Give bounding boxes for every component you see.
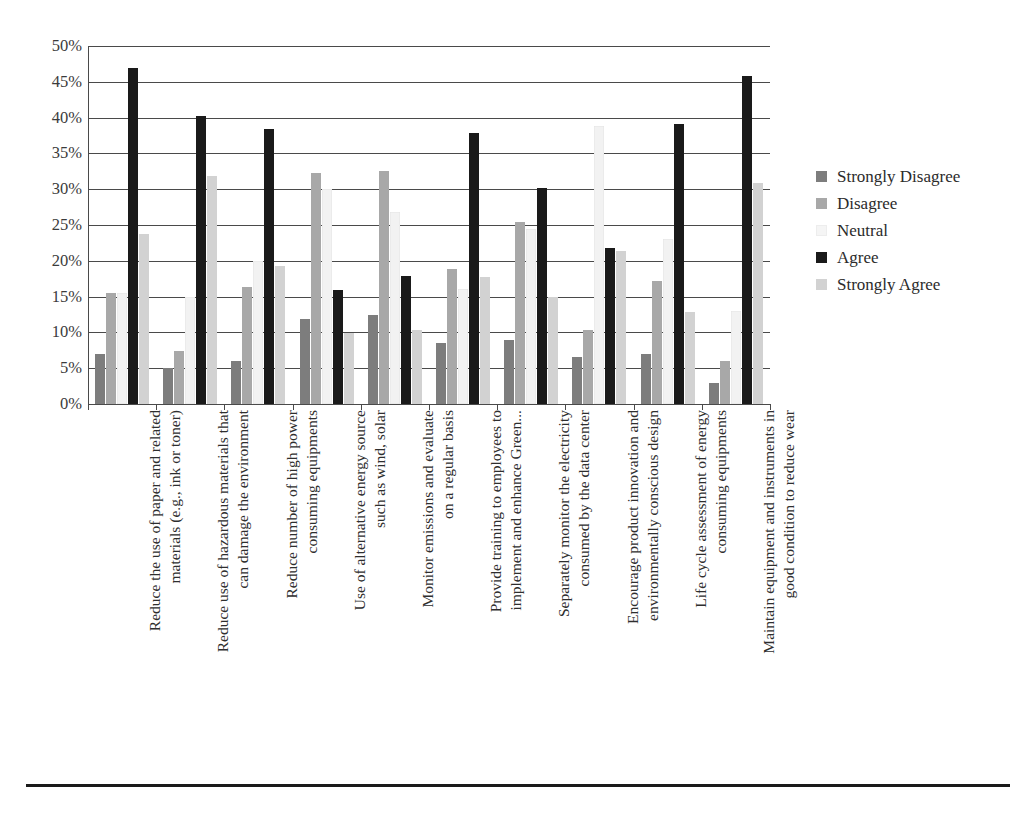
x-axis-category-label: Maintain equipment and instruments ingoo… [759, 410, 801, 770]
legend-item[interactable]: Strongly Disagree [816, 163, 1026, 190]
legend-swatch-icon [816, 171, 827, 182]
legend-item-label: Agree [837, 249, 879, 266]
x-axis-category-label: Provide training to employees toimplemen… [486, 410, 528, 770]
bar [106, 293, 116, 404]
x-axis-tick-mark [224, 404, 225, 410]
bar [674, 124, 684, 404]
x-axis-category-label-line: Monitor emissions and evaluate [418, 410, 438, 608]
bar [242, 287, 252, 404]
x-axis-category-label-line: consumed by the data center [574, 410, 594, 586]
x-axis-category-label: Reduce use of hazardous materials thatca… [213, 410, 255, 770]
bar-group [88, 46, 156, 404]
y-axis-tick-label: 25% [28, 217, 82, 234]
x-axis-category-label-line: Encourage product innovation and [623, 410, 643, 624]
x-axis-category-label-line: implement and enhance Green... [506, 410, 526, 611]
bar [685, 312, 695, 404]
bar [594, 126, 604, 404]
bottom-divider [26, 784, 1010, 787]
x-axis-category-label-line: Reduce number of high power [282, 410, 302, 599]
bars-layer [88, 46, 770, 404]
bar [174, 351, 184, 404]
bar [344, 333, 354, 404]
x-axis-tick-mark [497, 404, 498, 410]
y-axis-tick-labels: 0%5%10%15%20%25%30%35%40%45%50% [26, 46, 82, 404]
bar [139, 234, 149, 404]
bar [526, 229, 536, 404]
x-axis-category-label-line: Reduce use of hazardous materials that [213, 410, 233, 652]
chart-legend: Strongly DisagreeDisagreeNeutralAgreeStr… [816, 163, 1026, 298]
bar [572, 357, 582, 404]
bar [469, 133, 479, 404]
bar-group [429, 46, 497, 404]
x-axis-category-label: Encourage product innovation andenvironm… [623, 410, 665, 770]
bar [95, 354, 105, 404]
bar [652, 281, 662, 404]
legend-swatch-icon [816, 252, 827, 263]
bar-group [565, 46, 633, 404]
bar [504, 340, 514, 404]
legend-swatch-icon [816, 198, 827, 209]
x-axis-category-label-line: consuming equipments [710, 410, 730, 553]
x-axis-category-label-line: good condition to reduce wear [779, 410, 799, 599]
legend-item-label: Strongly Agree [837, 276, 940, 293]
y-axis-tick-label: 20% [28, 253, 82, 270]
bar [300, 319, 310, 404]
bar-group [293, 46, 361, 404]
bar-group [224, 46, 292, 404]
y-axis-tick-label: 30% [28, 181, 82, 198]
bar [515, 222, 525, 404]
legend-item-label: Disagree [837, 195, 897, 212]
y-axis-tick-label: 40% [28, 109, 82, 126]
bar [390, 212, 400, 404]
bar [185, 297, 195, 404]
bar-group [702, 46, 770, 404]
x-axis-category-label-line: on a regular basis [438, 410, 458, 519]
x-axis-category-label-line: such as wind, solar [369, 410, 389, 528]
legend-swatch-icon [816, 279, 827, 290]
bar [253, 261, 263, 404]
legend-item[interactable]: Agree [816, 244, 1026, 271]
x-axis-category-label-line: Use of alternative energy source [350, 410, 370, 610]
bar [480, 277, 490, 404]
x-axis-tick-mark [770, 404, 771, 410]
chart-page: 0%5%10%15%20%25%30%35%40%45%50% Reduce t… [0, 0, 1036, 823]
bar [333, 290, 343, 404]
y-axis-tick-label: 10% [28, 324, 82, 341]
bar [322, 189, 332, 404]
bar [616, 251, 626, 404]
bar [720, 361, 730, 404]
x-axis-category-label-line: materials (e.g., ink or toner) [165, 410, 185, 583]
bar [163, 368, 173, 404]
x-axis-category-label: Separately monitor the electricityconsum… [554, 410, 596, 770]
bar [663, 239, 673, 404]
y-axis-tick-label: 5% [28, 360, 82, 377]
bar [753, 183, 763, 404]
legend-item[interactable]: Neutral [816, 217, 1026, 244]
x-axis-category-label-line: Provide training to employees to [486, 410, 506, 612]
x-axis-tick-mark [88, 404, 89, 410]
x-axis-category-labels: Reduce the use of paper and relatedmater… [88, 410, 770, 770]
bar [447, 269, 457, 404]
x-axis-tick-mark [565, 404, 566, 410]
x-axis-tick-mark [702, 404, 703, 410]
x-axis-category-label-line: Maintain equipment and instruments in [759, 410, 779, 654]
bar [537, 188, 547, 404]
x-axis-category-label-line: consuming equipments [301, 410, 321, 553]
legend-item[interactable]: Strongly Agree [816, 271, 1026, 298]
x-axis-category-label: Use of alternative energy sourcesuch as … [350, 410, 392, 770]
bar-group [497, 46, 565, 404]
bar [196, 116, 206, 404]
x-axis-tick-mark [429, 404, 430, 410]
x-axis-category-label-line: Separately monitor the electricity [554, 410, 574, 617]
bar [731, 311, 741, 404]
legend-item[interactable]: Disagree [816, 190, 1026, 217]
legend-item-label: Strongly Disagree [837, 168, 960, 185]
x-axis-category-label-line: Reduce the use of paper and related [145, 410, 165, 631]
y-axis-tick-label: 35% [28, 145, 82, 162]
bar [436, 343, 446, 404]
x-axis-category-label: Monitor emissions and evaluateon a regul… [418, 410, 460, 770]
bar [401, 276, 411, 404]
bar [368, 315, 378, 404]
bar [641, 354, 651, 404]
x-axis-category-label: Reduce number of high powerconsuming equ… [282, 410, 324, 770]
